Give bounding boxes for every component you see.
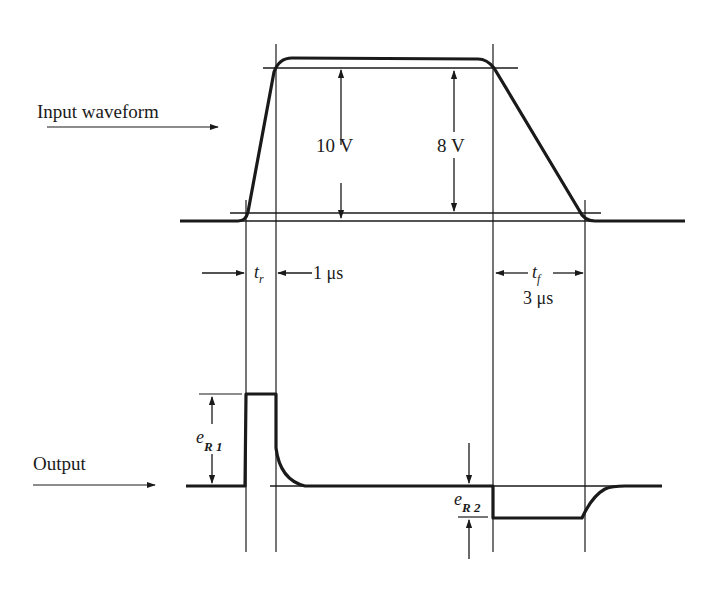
waveform-diagram: 10 V 8 V Input waveform tr 1 μs tf 3 μs … — [0, 0, 709, 595]
er1-label: eR 1 — [196, 427, 222, 454]
input-waveform — [180, 58, 685, 221]
reference-amplitude-label: 8 V — [437, 135, 465, 156]
output-trace — [186, 394, 662, 518]
input-waveform-label: Input waveform — [37, 101, 159, 122]
fall-time-annotation: tf 3 μs — [496, 262, 583, 308]
rise-time-symbol: tr — [254, 262, 264, 286]
er2-label: eR 2 — [454, 489, 481, 515]
output-waveform — [186, 394, 662, 559]
input-amplitude-label: 10 V — [316, 135, 353, 156]
rise-time-value: 1 μs — [313, 263, 343, 283]
input-trapezoid — [180, 58, 685, 221]
rise-time-annotation: tr 1 μs — [202, 262, 343, 286]
output-label: Output — [33, 453, 87, 474]
fall-time-symbol: tf — [532, 262, 542, 286]
fall-time-value: 3 μs — [523, 288, 553, 308]
